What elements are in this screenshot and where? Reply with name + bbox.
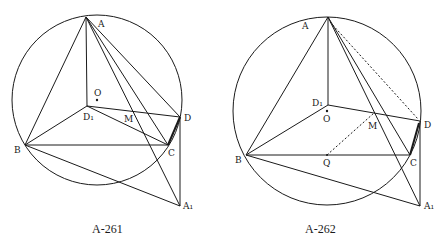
label-A1: A₁ — [423, 201, 434, 211]
caption-a261: A-261 — [92, 222, 123, 236]
label-A: A — [97, 19, 105, 29]
label-M: M — [368, 121, 377, 131]
caption-a262: A-262 — [305, 222, 336, 236]
q-point — [326, 154, 328, 156]
label-B: B — [14, 145, 21, 155]
label-O: O — [323, 114, 330, 124]
label-C: C — [410, 158, 417, 168]
label-D: D — [184, 113, 191, 123]
label-A1: A₁ — [182, 201, 193, 211]
label-D: D — [424, 120, 431, 130]
figure-a262: A O D₁ M D B Q C A₁ A-262 — [233, 17, 434, 236]
label-D1: D₁ — [312, 98, 323, 108]
center-point — [96, 99, 98, 101]
label-B: B — [235, 155, 242, 165]
figure-a261: A O D₁ M D B C A₁ A-261 — [12, 15, 193, 236]
label-M: M — [124, 114, 133, 124]
center-point — [326, 110, 328, 112]
label-Q: Q — [323, 158, 330, 168]
geometry-figures: A O D₁ M D B C A₁ A-261 A O — [0, 0, 444, 246]
label-A: A — [301, 21, 309, 31]
label-O: O — [94, 88, 101, 98]
label-C: C — [168, 148, 175, 158]
label-D1: D₁ — [83, 112, 94, 122]
